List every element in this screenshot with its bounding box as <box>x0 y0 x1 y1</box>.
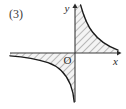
hyperbola-plot: y x O <box>0 0 126 109</box>
y-axis-label: y <box>64 2 70 14</box>
figure-container: (3) <box>0 0 126 109</box>
origin-label: O <box>64 54 72 66</box>
x-axis-label: x <box>112 55 118 67</box>
